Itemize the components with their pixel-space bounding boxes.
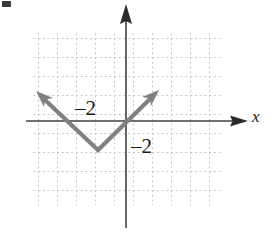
x-axis-tick-label-negative-two: –2 <box>75 98 96 119</box>
y-axis-arrowhead <box>120 4 132 24</box>
x-axis-label: x <box>252 108 260 125</box>
graph-canvas <box>0 0 276 237</box>
x-axis-arrowhead <box>230 116 248 127</box>
absolute-value-graph-figure: –2 –2 x <box>0 0 276 237</box>
y-axis-tick-label-negative-two: –2 <box>131 136 152 157</box>
